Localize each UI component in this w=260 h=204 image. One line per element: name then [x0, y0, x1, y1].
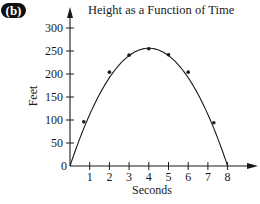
y-tick-label: 0	[61, 159, 67, 173]
height-curve-line	[70, 48, 228, 166]
y-tick-label: 150	[45, 90, 63, 104]
chart-area: 12345678050100150200250300 Seconds Feet	[0, 0, 260, 204]
x-axis-label: Seconds	[132, 183, 172, 197]
y-tick-label: 200	[45, 67, 63, 81]
x-axis-arrow-icon	[247, 163, 258, 169]
x-tick-label: 5	[166, 170, 172, 184]
x-tick-label: 6	[185, 170, 191, 184]
data-points	[82, 47, 216, 125]
data-point	[212, 121, 216, 125]
data-point	[82, 120, 86, 124]
data-point	[147, 47, 151, 51]
axes: 12345678050100150200250300	[45, 7, 258, 184]
y-axis-label: Feet	[26, 85, 40, 106]
x-tick-label: 3	[126, 170, 132, 184]
x-tick-label: 4	[146, 170, 152, 184]
y-tick-label: 300	[45, 21, 63, 35]
height-curve	[70, 48, 228, 166]
y-tick-label: 250	[45, 44, 63, 58]
y-axis-arrow-icon	[67, 7, 73, 18]
data-point	[186, 70, 190, 74]
x-tick-label: 8	[225, 170, 231, 184]
data-point	[108, 70, 112, 74]
data-point	[167, 53, 171, 57]
data-point	[127, 53, 131, 57]
y-tick-label: 100	[45, 113, 63, 127]
x-tick-label: 2	[106, 170, 112, 184]
x-tick-label: 7	[205, 170, 211, 184]
y-tick-label: 50	[51, 136, 63, 150]
x-tick-label: 1	[87, 170, 93, 184]
